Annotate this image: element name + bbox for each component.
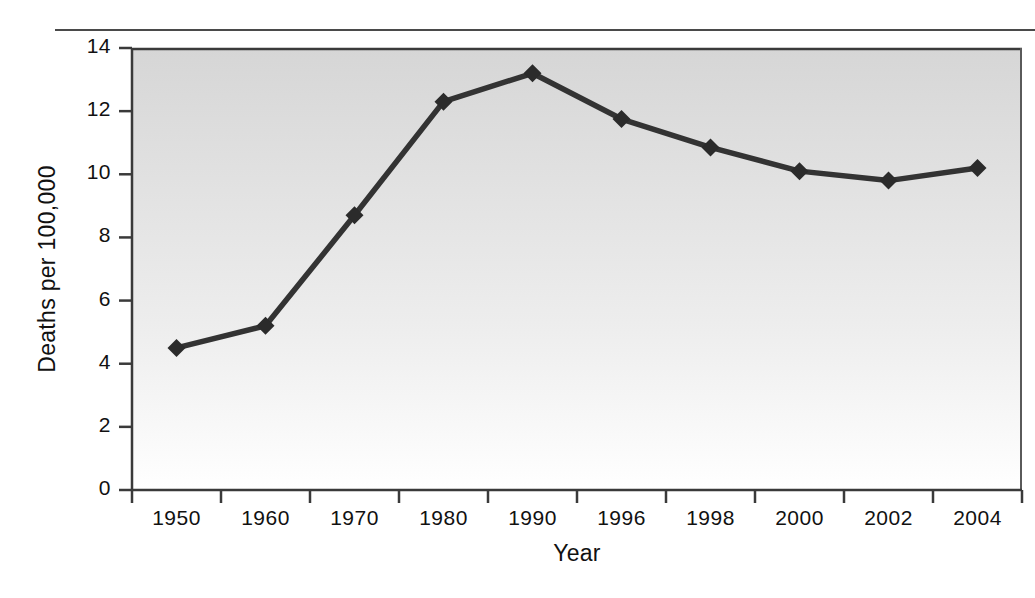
y-tick-label: 4: [71, 350, 111, 374]
y-tick-label: 12: [71, 97, 111, 121]
y-tick-label: 2: [71, 413, 111, 437]
x-tick-label: 1960: [221, 506, 310, 530]
y-tick-label: 6: [71, 287, 111, 311]
x-tick-label: 1980: [399, 506, 488, 530]
plot-area-background: [132, 48, 1022, 490]
x-tick-label: 1996: [577, 506, 666, 530]
x-tick-label: 2002: [844, 506, 933, 530]
y-tick-label: 8: [71, 223, 111, 247]
y-axis-ticks: [119, 48, 132, 490]
y-tick-label: 0: [71, 476, 111, 500]
y-axis-title: Deaths per 100,000: [34, 165, 61, 372]
figure-container: 02468101214 1950196019701980199019961998…: [0, 0, 1035, 598]
x-tick-label: 1990: [488, 506, 577, 530]
x-tick-label: 1950: [132, 506, 221, 530]
x-axis-ticks: [132, 490, 1022, 503]
x-tick-label: 2004: [933, 506, 1022, 530]
x-tick-label: 1970: [310, 506, 399, 530]
y-tick-label: 10: [71, 160, 111, 184]
x-tick-label: 1998: [666, 506, 755, 530]
y-tick-label: 14: [71, 34, 111, 58]
x-tick-label: 2000: [755, 506, 844, 530]
x-axis-title: Year: [132, 540, 1022, 567]
